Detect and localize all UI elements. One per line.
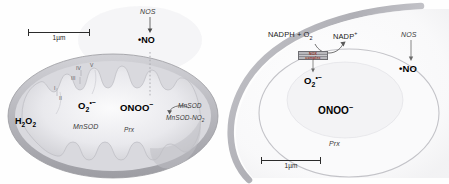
nox-complex-box: NOX complex [298,51,328,60]
figure-container: 1µm NOS •NO I II III IV V O2•− MnSOD ONO… [0,0,449,184]
nadph-substrate-label: NADPH + O2 [268,31,313,41]
complex-iv-label: IV [76,66,81,71]
superoxide-charge: •− [89,99,96,106]
nitric-oxide-label-cell: •NO [399,64,417,74]
peroxynitrite-label-mito: ONOO− [120,102,154,113]
peroxynitrite-formula: ONOO [120,102,149,113]
scale-bar-line-cell [261,160,321,161]
nitric-oxide-label: •NO [138,36,155,45]
nos-enzyme-label: NOS [140,8,155,15]
superoxide-element-cell: O [304,75,312,86]
peroxynitrite-charge-cell: − [349,103,353,112]
mnsod-reactant-label: MnSOD [178,103,202,110]
superoxide-label-cell: O2•− [304,75,322,89]
panel-cell: NADPH + O2 NADP+ NOX complex O2•− ONOO− … [225,0,449,184]
peroxynitrite-label-cell: ONOO− [318,104,353,116]
superoxide-subscript-cell: 2 [312,81,316,88]
superoxide-element: O [78,100,86,111]
nadp-product-label: NADP+ [333,31,358,40]
nos-enzyme-label-cell: NOS [401,31,416,38]
nadph-o2-subscript: 2 [310,35,313,41]
mitochondrion-diagram [0,0,225,184]
no-formula: NO [141,35,155,45]
nadph-formula: NADPH + O [268,30,310,39]
superoxide-subscript: 2 [86,106,90,113]
h2o2-sub2: 2 [32,121,36,128]
nadp-charge: + [354,30,357,36]
mnsod-no2-product-label: MnSOD-NO2 [166,115,205,124]
hydrogen-peroxide-label: H2O2 [15,117,36,128]
scale-bar-line [28,32,90,33]
complex-v-label: V [90,63,93,68]
superoxide-label-mito: O2•− [78,100,96,114]
complex-iii-label: III [71,76,75,81]
inner-lumen [287,62,403,138]
scale-bar-label-cell: 1µm [261,162,321,169]
mnsod-label: MnSOD [73,123,98,130]
no-formula-cell: NO [402,63,416,74]
nadp-formula: NADP [333,32,354,41]
nox-complex-label: NOX complex [299,53,327,61]
cell-diagram [225,0,449,184]
mnsod-no2-formula: MnSOD-NO [166,114,202,121]
peroxynitrite-charge: − [149,101,153,108]
peroxynitrite-formula-cell: ONOO [318,105,349,116]
prx-label-mito: Prx [124,127,134,134]
complex-ii-label: II [59,96,62,101]
mnsod-no2-subscript: 2 [202,118,205,123]
complex-i-label: I [54,86,56,91]
prx-label-cell: Prx [329,140,340,147]
h2o2-h: H [15,116,22,126]
superoxide-charge-cell: •− [315,74,322,81]
panel-mitochondrion: 1µm NOS •NO I II III IV V O2•− MnSOD ONO… [0,0,225,184]
nox-complex-line2: complex [305,56,320,60]
scale-bar-label: 1µm [28,34,90,41]
